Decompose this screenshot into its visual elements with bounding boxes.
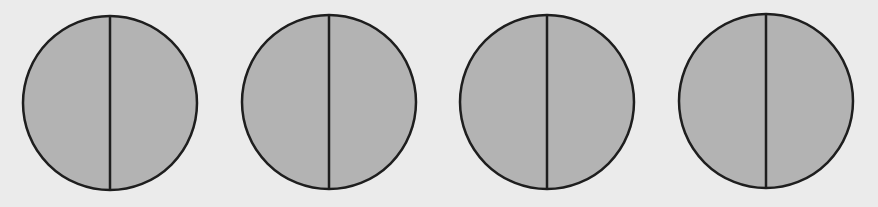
halved-circle [460,15,634,189]
circles-canvas [0,0,878,207]
halved-circle [23,16,197,190]
halved-circle [679,14,853,188]
halved-circle [242,15,416,189]
fraction-circles-figure [0,0,878,207]
